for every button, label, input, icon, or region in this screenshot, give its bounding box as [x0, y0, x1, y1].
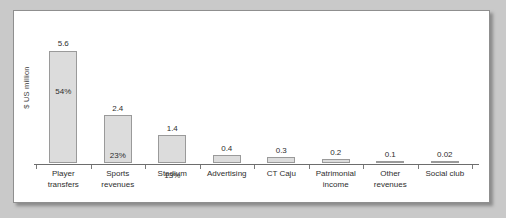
bar-percent-label: 23%	[93, 151, 143, 160]
category-label-line: transfers	[36, 180, 91, 191]
bar-value-label: 0.2	[311, 148, 361, 157]
bar-chart: $ US million 5.654%2.423%1.413%0.40.30.2…	[14, 11, 491, 204]
x-axis-tick	[309, 165, 310, 169]
bar-value-label: 1.4	[147, 124, 197, 133]
bar	[322, 159, 350, 163]
category-label-line: revenues	[91, 180, 146, 191]
x-axis-tick	[472, 165, 473, 169]
category-label-line: income	[309, 180, 364, 191]
chart-page: $ US million 5.654%2.423%1.413%0.40.30.2…	[0, 0, 506, 218]
category-label-line: Social club	[418, 169, 473, 180]
bar-value-label: 2.4	[93, 104, 143, 113]
bar	[158, 135, 186, 163]
x-axis-tick	[254, 165, 255, 169]
category-label: Playertransfers	[36, 169, 91, 190]
category-label: Patrimonialincome	[309, 169, 364, 190]
bar	[431, 161, 459, 163]
bar	[376, 161, 404, 163]
chart-frame: $ US million 5.654%2.423%1.413%0.40.30.2…	[13, 10, 490, 203]
bar-value-label: 0.02	[420, 150, 470, 159]
x-axis-tick	[418, 165, 419, 169]
category-label-line: Player	[36, 169, 91, 180]
y-axis-title: $ US million	[22, 40, 31, 136]
x-axis-tick	[363, 165, 364, 169]
category-label-line: revenues	[363, 180, 418, 191]
category-label: Stadium	[145, 169, 200, 180]
category-label-line: Advertising	[200, 169, 255, 180]
x-axis-line	[34, 164, 479, 165]
category-label-line: Other	[363, 169, 418, 180]
bar	[267, 157, 295, 163]
bar	[49, 51, 77, 164]
category-label-line: Sports	[91, 169, 146, 180]
category-label-line: Stadium	[145, 169, 200, 180]
bar-value-label: 5.6	[38, 39, 88, 48]
category-label: Otherrevenues	[363, 169, 418, 190]
category-label: Social club	[418, 169, 473, 180]
category-label-line: CT Caju	[254, 169, 309, 180]
bar-percent-label: 54%	[38, 87, 88, 96]
category-label: Advertising	[200, 169, 255, 180]
x-axis-tick	[145, 165, 146, 169]
bar-value-label: 0.1	[365, 150, 415, 159]
bar-value-label: 0.4	[202, 144, 252, 153]
category-label-line: Patrimonial	[309, 169, 364, 180]
x-axis-tick	[91, 165, 92, 169]
bar	[213, 155, 241, 163]
x-axis-tick	[200, 165, 201, 169]
x-axis-tick	[36, 165, 37, 169]
bar-value-label: 0.3	[256, 146, 306, 155]
category-label: Sportsrevenues	[91, 169, 146, 190]
category-label: CT Caju	[254, 169, 309, 180]
